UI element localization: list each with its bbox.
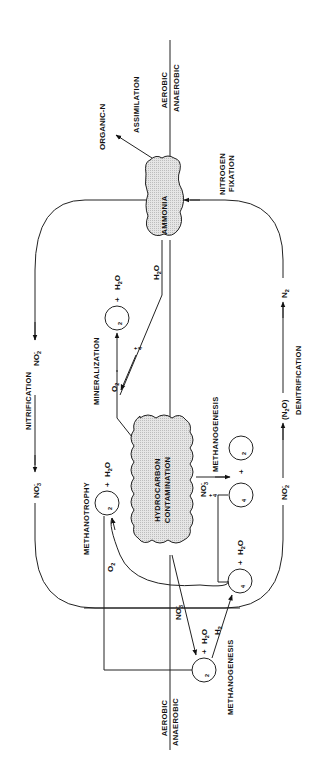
co2-circle-methanogenesis <box>229 436 253 460</box>
line-ch4-connector <box>218 495 228 582</box>
label-anaerobic-top: ANAEROBIC <box>172 64 181 112</box>
arrow-methanotrophy <box>112 518 115 530</box>
label-nitrogen: NITROGEN <box>218 153 227 195</box>
label-methanotrophy: METHANOTROPHY <box>82 482 91 555</box>
label-aerobic-top: AEROBIC <box>160 71 169 108</box>
species-organic-n: ORGANIC-N <box>98 104 107 150</box>
arrow-nh4-mineralization <box>121 355 136 390</box>
label-assimilation: ASSIMILATION <box>132 76 141 133</box>
label-aerobic-bottom: AEROBIC <box>160 699 169 736</box>
arrow-assimilation <box>116 135 152 158</box>
species-h2o-ammonia: H2O <box>152 265 162 280</box>
species-no2-nitrification: NO2- <box>31 351 42 366</box>
plus-mineralization: + <box>113 297 122 302</box>
co2-circle-mineralization <box>105 306 129 330</box>
label-methanogenesis-upper: METHANOGENESIS <box>211 397 220 472</box>
label-methanogenesis-lower: METHANOGENESIS <box>226 640 235 715</box>
species-nh4-methanogenesis: 4+ <box>207 493 218 497</box>
arrow-to-co2-bottom <box>172 555 196 655</box>
species-co2-bottom: 2 <box>204 674 210 677</box>
plus-methanotrophy: + <box>103 482 112 487</box>
co2-circle-bottom <box>192 658 216 682</box>
species-h2o-bottom: H2O <box>200 629 210 644</box>
ch4-circle-methanogenesis <box>229 483 253 507</box>
label-hydrocarbon: HYDROCARBON <box>153 458 162 521</box>
species-n2o: (N2O) <box>280 399 290 420</box>
label-anaerobic-bottom: ANAEROBIC <box>171 698 180 746</box>
plus-ch4-lower: + <box>236 560 245 565</box>
loop-top-left <box>35 200 148 340</box>
species-no2-denitrification: NO2- <box>279 485 290 500</box>
hydrocarbon-contamination-blob <box>131 415 193 543</box>
label-nitrification: NITRIFICATION <box>24 372 33 430</box>
loop-top-right <box>190 200 283 278</box>
species-n2: N2 <box>280 289 290 298</box>
plus-methanogenesis: + <box>237 469 246 474</box>
plus-co2-bottom: + <box>200 649 209 654</box>
label-contamination: CONTAMINATION <box>163 457 172 524</box>
species-h2o-methanotrophy: H2O <box>103 462 113 477</box>
species-co2-methanotrophy: 2 <box>107 507 113 510</box>
species-co2-mineralization: 2 <box>117 322 123 325</box>
species-co2-methanogenesis: 2 <box>241 452 247 455</box>
species-nh4-mineralization: 4+ <box>132 346 143 350</box>
ch4-circle-lower <box>228 569 252 593</box>
label-ammonia: AMMONIA <box>160 195 169 234</box>
species-no3-bottom: NO3- <box>173 605 184 620</box>
label-fixation: FIXATION <box>227 155 236 192</box>
co2-circle-methanotrophy <box>95 491 119 515</box>
species-o2-methanotrophy: O2 <box>106 563 116 572</box>
species-h2o-mineralization: H2O <box>113 275 123 290</box>
label-denitrification: DENITRIFICATION <box>294 346 303 415</box>
species-h2o-lower: H2O <box>236 540 246 555</box>
species-no3-nitrification: NO3- <box>31 483 42 498</box>
label-mineralization: MINERALIZATION <box>92 337 101 405</box>
diagram-canvas: AEROBIC ANAEROBIC AEROBIC ANAEROBIC NO2-… <box>0 0 319 774</box>
species-o2-mineralization: O2 <box>110 383 120 392</box>
